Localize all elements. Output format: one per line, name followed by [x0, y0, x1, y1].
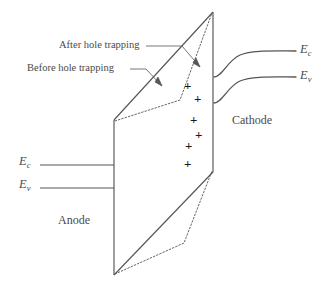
anode-band-lines — [40, 165, 114, 188]
positive-charge-5: + — [185, 139, 192, 152]
before-trapping-dotted-outline — [115, 13, 212, 274]
right-valence-subscript: v — [308, 74, 312, 84]
left-conduction-subscript: c — [27, 160, 31, 170]
after-arrowhead — [193, 58, 200, 67]
positive-charge-4: + — [195, 128, 202, 141]
left-valence-subscript: v — [27, 183, 31, 193]
positive-charge-3: + — [190, 113, 197, 126]
anode-label: Anode — [58, 214, 90, 226]
after-leader — [146, 46, 200, 67]
diagram-canvas — [0, 0, 323, 287]
before-arrowhead — [155, 77, 162, 86]
before-hole-trapping-label: Before hole trapping — [27, 63, 114, 74]
bottom-slant-edge — [114, 172, 213, 275]
left-valence-symbol: E — [19, 177, 27, 191]
right-valence-band-label: Ev — [300, 69, 311, 82]
right-conduction-symbol: E — [300, 42, 308, 56]
left-conduction-band-label: Ec — [19, 155, 30, 168]
after-hole-trapping-label: After hole trapping — [59, 40, 139, 51]
cathode-band-curves — [214, 51, 296, 103]
left-conduction-symbol: E — [19, 154, 27, 168]
right-conduction-subscript: c — [308, 48, 312, 58]
positive-charge-2: + — [194, 92, 201, 105]
cathode-label: Cathode — [232, 114, 272, 126]
positive-charge-1: + — [184, 79, 191, 92]
left-valence-band-label: Ev — [19, 178, 30, 191]
positive-charge-6: + — [184, 157, 191, 170]
right-valence-curve — [214, 77, 296, 103]
right-valence-symbol: E — [300, 68, 308, 82]
right-conduction-curve — [214, 51, 296, 77]
right-conduction-band-label: Ec — [300, 43, 311, 56]
hole-trapping-band-diagram: After hole trapping Before hole trapping… — [0, 0, 323, 287]
